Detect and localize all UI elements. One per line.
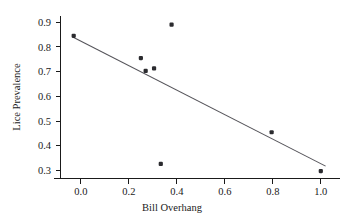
data-point — [169, 23, 173, 27]
regression-line-segment — [74, 38, 326, 167]
x-tick-label: 0.6 — [218, 186, 231, 197]
y-tick-label: 0.6 — [38, 91, 51, 102]
y-tick-label: 0.8 — [38, 42, 51, 53]
x-tick-label: 0.4 — [170, 186, 184, 197]
x-axis-title: Bill Overhang — [142, 202, 203, 213]
x-axis-ticks: 0.00.20.40.60.81.0 — [74, 179, 327, 198]
data-points-group — [72, 23, 323, 174]
data-point — [152, 66, 156, 70]
data-point — [144, 69, 148, 73]
y-tick-label: 0.5 — [38, 116, 51, 127]
x-tick-label: 0.2 — [122, 186, 135, 197]
data-point — [139, 56, 143, 60]
y-tick-label: 0.3 — [38, 165, 51, 176]
y-tick-label: 0.9 — [38, 17, 51, 28]
data-point — [319, 169, 323, 173]
x-tick-label: 1.0 — [314, 186, 327, 197]
y-axis-ticks: 0.30.40.50.60.70.80.9 — [38, 17, 61, 176]
data-point — [270, 130, 274, 134]
data-point — [159, 162, 163, 166]
y-tick-label: 0.4 — [38, 140, 52, 151]
y-axis-title: Lice Prevalence — [11, 63, 22, 131]
x-tick-label: 0.8 — [266, 186, 279, 197]
regression-line — [74, 38, 326, 167]
x-tick-label: 0.0 — [74, 186, 87, 197]
scatter-plot-figure: 0.30.40.50.60.70.80.9 0.00.20.40.60.81.0… — [0, 0, 345, 224]
data-point — [72, 34, 76, 38]
y-tick-label: 0.7 — [38, 66, 51, 77]
plot-canvas: 0.30.40.50.60.70.80.9 0.00.20.40.60.81.0… — [0, 0, 345, 224]
